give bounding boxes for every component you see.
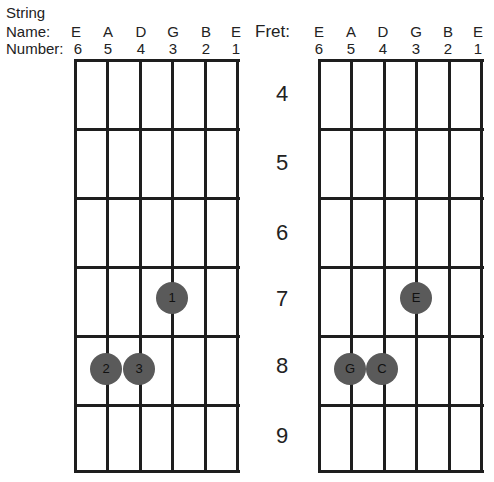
fret-number-5: 5 <box>262 152 302 174</box>
fret-line <box>318 128 484 131</box>
finger-dot-3: 3 <box>123 353 155 385</box>
left-string-name-6: E <box>66 24 86 39</box>
fret-line <box>318 266 484 269</box>
finger-dot-2: 2 <box>90 353 122 385</box>
left-string-name-5: A <box>98 24 118 39</box>
fret-line <box>74 404 240 407</box>
fret-line <box>74 197 240 200</box>
note-dot-c: C <box>366 353 398 385</box>
fret-number-6: 6 <box>262 222 302 244</box>
right-string-number-2: 2 <box>438 41 458 56</box>
right-string-number-6: 6 <box>309 41 329 56</box>
left-string-number-5: 5 <box>98 41 118 56</box>
fret-number-9: 9 <box>262 425 302 447</box>
fret-line <box>318 197 484 200</box>
fret-line <box>74 470 240 473</box>
fret-label: Fret: <box>255 24 290 39</box>
fret-line <box>318 59 484 62</box>
right-string-number-4: 4 <box>373 41 393 56</box>
left-string-number-2: 2 <box>196 41 216 56</box>
left-string-name-3: G <box>163 24 183 39</box>
right-string-name-5: A <box>341 24 361 39</box>
fret-line <box>74 335 240 338</box>
fret-line <box>318 335 484 338</box>
right-string-number-1: 1 <box>468 41 488 56</box>
right-string-name-4: D <box>373 24 393 39</box>
left-string-name-1: E <box>226 24 246 39</box>
right-string-number-5: 5 <box>341 41 361 56</box>
right-fretboard <box>318 59 481 472</box>
name-label: Name: <box>6 24 50 39</box>
left-string-number-3: 3 <box>163 41 183 56</box>
left-string-name-4: D <box>131 24 151 39</box>
left-string-name-2: B <box>196 24 216 39</box>
left-string-number-1: 1 <box>226 41 246 56</box>
fret-line <box>318 470 484 473</box>
right-string-name-6: E <box>309 24 329 39</box>
left-string-number-6: 6 <box>68 41 88 56</box>
number-label: Number: <box>6 41 64 56</box>
fret-number-8: 8 <box>262 355 302 377</box>
finger-dot-1: 1 <box>156 282 188 314</box>
fret-line <box>74 59 240 62</box>
right-string-number-3: 3 <box>406 41 426 56</box>
note-dot-e: E <box>400 282 432 314</box>
right-string-name-1: E <box>468 24 488 39</box>
fret-number-7: 7 <box>262 288 302 310</box>
fret-line <box>74 266 240 269</box>
string-title: String <box>6 5 45 20</box>
fret-line <box>74 128 240 131</box>
fret-line <box>318 404 484 407</box>
right-string-name-2: B <box>438 24 458 39</box>
fret-number-4: 4 <box>262 83 302 105</box>
right-string-name-3: G <box>406 24 426 39</box>
left-fretboard <box>74 59 237 472</box>
note-dot-g: G <box>334 353 366 385</box>
left-string-number-4: 4 <box>131 41 151 56</box>
